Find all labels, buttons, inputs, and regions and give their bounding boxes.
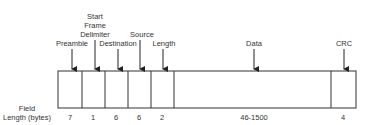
frame-box: [58, 71, 356, 108]
length-sfd: 1: [91, 113, 95, 122]
length-source: 6: [137, 113, 141, 122]
label-source: Source: [130, 30, 154, 39]
length-length: 2: [160, 113, 164, 122]
row-label-line2: Length (bytes): [3, 113, 51, 122]
label-sfd-line1: Start: [87, 12, 103, 21]
label-sfd-line2: Frame: [84, 21, 106, 30]
label-crc: CRC: [336, 39, 352, 48]
length-destination: 6: [114, 113, 118, 122]
label-length: Length: [153, 39, 176, 48]
length-crc: 4: [341, 113, 345, 122]
label-sfd-line3: Delimiter: [80, 30, 110, 39]
row-label-line1: Field: [19, 104, 35, 113]
frame-diagram: [0, 0, 372, 125]
length-preamble: 7: [68, 113, 72, 122]
label-destination: Destination: [99, 39, 137, 48]
length-data: 46-1500: [240, 113, 268, 122]
label-data: Data: [246, 39, 262, 48]
label-preamble: Preamble: [56, 39, 88, 48]
